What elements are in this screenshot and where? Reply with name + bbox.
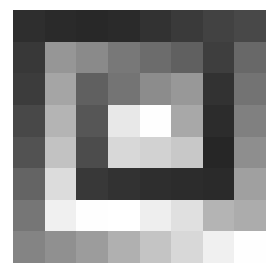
heatmap-cell xyxy=(45,73,77,105)
heatmap-cell xyxy=(76,73,108,105)
heatmap-cell xyxy=(76,10,108,42)
heatmap-cell xyxy=(13,168,45,200)
heatmap-cell xyxy=(234,42,266,74)
heatmap-cell xyxy=(140,168,172,200)
heatmap-cell xyxy=(234,73,266,105)
heatmap-cell xyxy=(171,42,203,74)
heatmap-cell xyxy=(108,200,140,232)
heatmap-grid xyxy=(13,10,266,263)
heatmap-cell xyxy=(76,200,108,232)
heatmap-cell xyxy=(45,231,77,263)
heatmap-cell xyxy=(108,73,140,105)
heatmap-cell xyxy=(108,105,140,137)
heatmap-cell xyxy=(13,231,45,263)
heatmap-cell xyxy=(234,10,266,42)
heatmap-cell xyxy=(108,231,140,263)
heatmap-cell xyxy=(203,168,235,200)
heatmap-cell xyxy=(234,231,266,263)
heatmap-cell xyxy=(76,168,108,200)
heatmap-cell xyxy=(140,73,172,105)
heatmap-cell xyxy=(140,137,172,169)
heatmap-cell xyxy=(13,105,45,137)
heatmap-cell xyxy=(234,200,266,232)
heatmap-cell xyxy=(45,200,77,232)
heatmap-cell xyxy=(171,168,203,200)
heatmap-cell xyxy=(45,10,77,42)
heatmap-cell xyxy=(13,73,45,105)
heatmap-cell xyxy=(13,10,45,42)
heatmap-cell xyxy=(234,168,266,200)
heatmap-cell xyxy=(171,137,203,169)
heatmap-cell xyxy=(13,42,45,74)
heatmap-cell xyxy=(76,105,108,137)
heatmap-cell xyxy=(108,42,140,74)
heatmap-cell xyxy=(45,168,77,200)
heatmap-cell xyxy=(108,137,140,169)
heatmap-cell xyxy=(76,42,108,74)
heatmap-cell xyxy=(171,73,203,105)
heatmap-cell xyxy=(234,105,266,137)
heatmap-cell xyxy=(140,231,172,263)
heatmap-cell xyxy=(171,231,203,263)
heatmap-cell xyxy=(108,168,140,200)
heatmap-cell xyxy=(140,10,172,42)
heatmap-cell xyxy=(203,10,235,42)
heatmap-cell xyxy=(76,137,108,169)
heatmap-cell xyxy=(45,137,77,169)
heatmap-cell xyxy=(203,73,235,105)
heatmap-cell xyxy=(140,200,172,232)
heatmap-cell xyxy=(171,10,203,42)
heatmap-cell xyxy=(203,105,235,137)
heatmap-cell xyxy=(171,105,203,137)
heatmap-cell xyxy=(203,42,235,74)
heatmap-cell xyxy=(76,231,108,263)
heatmap-cell xyxy=(203,231,235,263)
heatmap-cell xyxy=(140,105,172,137)
heatmap-cell xyxy=(13,200,45,232)
heatmap-cell xyxy=(234,137,266,169)
heatmap-cell xyxy=(45,42,77,74)
heatmap-cell xyxy=(108,10,140,42)
heatmap-cell xyxy=(203,200,235,232)
heatmap-cell xyxy=(45,105,77,137)
heatmap-cell xyxy=(140,42,172,74)
heatmap-cell xyxy=(171,200,203,232)
heatmap-cell xyxy=(13,137,45,169)
heatmap-cell xyxy=(203,137,235,169)
